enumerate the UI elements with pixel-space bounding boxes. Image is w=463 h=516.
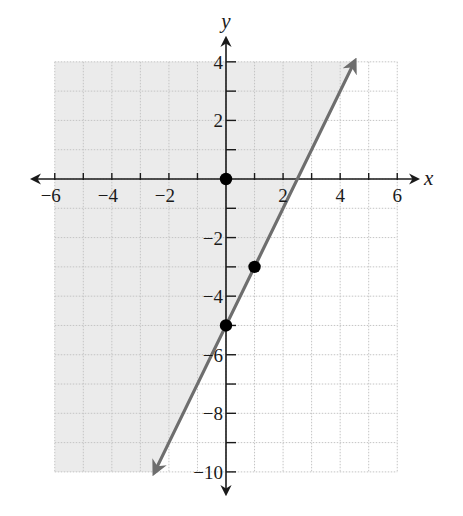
y-tick-label: −8 xyxy=(203,403,223,424)
data-point xyxy=(220,319,232,331)
y-tick-label: 2 xyxy=(214,110,224,131)
data-point xyxy=(248,261,260,273)
data-point xyxy=(220,173,232,185)
x-tick-label: 2 xyxy=(278,185,288,206)
y-tick-label: −4 xyxy=(203,286,224,307)
inequality-graph: −6−4−224642−2−4−6−8−10xy xyxy=(0,0,463,516)
x-tick-label: 4 xyxy=(335,185,345,206)
x-tick-label: −2 xyxy=(155,185,175,206)
x-axis-label: x xyxy=(423,166,434,190)
x-tick-label: −6 xyxy=(41,185,61,206)
y-axis-label: y xyxy=(219,9,231,33)
y-tick-label: 4 xyxy=(214,52,224,73)
x-tick-label: −4 xyxy=(98,185,119,206)
y-tick-label: −10 xyxy=(193,462,223,483)
x-tick-label: 6 xyxy=(392,185,402,206)
y-tick-label: −6 xyxy=(203,345,223,366)
y-tick-label: −2 xyxy=(203,228,223,249)
